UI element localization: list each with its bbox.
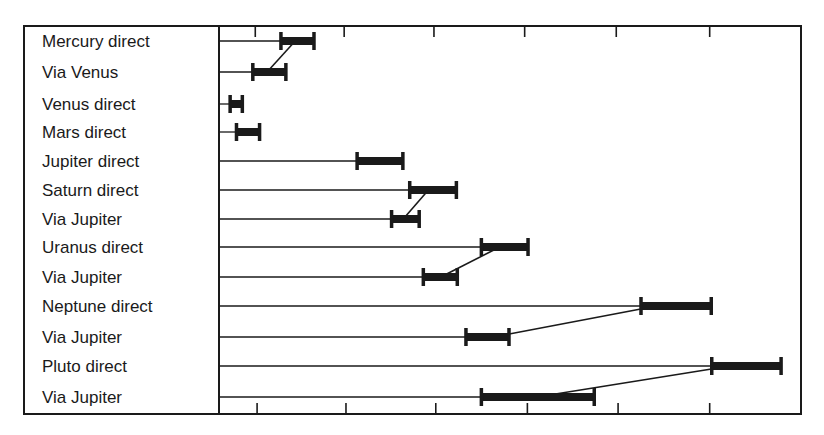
bar-start-cap [480, 388, 484, 406]
bar-end-cap [456, 268, 460, 286]
category-label: Via Venus [42, 63, 118, 82]
bar-end-cap [284, 63, 288, 81]
category-label: Saturn direct [42, 181, 139, 200]
category-label: Venus direct [42, 95, 136, 114]
category-label: Via Jupiter [42, 268, 122, 287]
range-bar [251, 63, 288, 81]
range-bar [279, 32, 316, 50]
bar-end-cap [241, 95, 245, 113]
category-label: Via Jupiter [42, 328, 122, 347]
bar-start-cap [251, 63, 255, 81]
category-label: Uranus direct [42, 238, 143, 257]
connector-line [555, 369, 711, 394]
bar-start-cap [422, 268, 426, 286]
category-label: Pluto direct [42, 357, 127, 376]
range-bar [390, 210, 421, 228]
bar-end-cap [592, 388, 596, 406]
bar-end-cap [455, 181, 459, 199]
bar-end-cap [710, 297, 714, 315]
category-label: Mars direct [42, 123, 126, 142]
connector-line [447, 250, 494, 274]
bar-start-cap [355, 152, 359, 170]
category-labels: Mercury directVia VenusVenus directMars … [42, 32, 153, 407]
bar-end-cap [401, 152, 405, 170]
range-bar [235, 123, 262, 141]
axis-ticks [255, 26, 709, 414]
planetary-transfer-range-chart: Mercury directVia VenusVenus directMars … [0, 0, 824, 435]
category-label: Via Jupiter [42, 388, 122, 407]
range-bar [639, 297, 713, 315]
bar-end-cap [507, 328, 511, 346]
range-bar [355, 152, 404, 170]
range-bar [228, 95, 244, 113]
range-bar [710, 357, 783, 375]
bar-start-cap [480, 238, 484, 256]
bar-start-cap [235, 123, 239, 141]
category-label: Via Jupiter [42, 210, 122, 229]
bar-end-cap [312, 32, 316, 50]
bar-start-cap [639, 297, 643, 315]
connector-line [509, 309, 641, 334]
bar-start-cap [408, 181, 412, 199]
category-label: Jupiter direct [42, 152, 140, 171]
bar-start-cap [464, 328, 468, 346]
category-label: Neptune direct [42, 297, 153, 316]
range-bar [408, 181, 458, 199]
range-bar [464, 328, 511, 346]
bar-end-cap [526, 238, 530, 256]
bar-start-cap [390, 210, 394, 228]
bar-end-cap [417, 210, 421, 228]
bar-start-cap [279, 32, 283, 50]
bar-start-cap [710, 357, 714, 375]
bar-end-cap [258, 123, 262, 141]
bar-end-cap [779, 357, 783, 375]
category-label: Mercury direct [42, 32, 150, 51]
bar-start-cap [228, 95, 232, 113]
